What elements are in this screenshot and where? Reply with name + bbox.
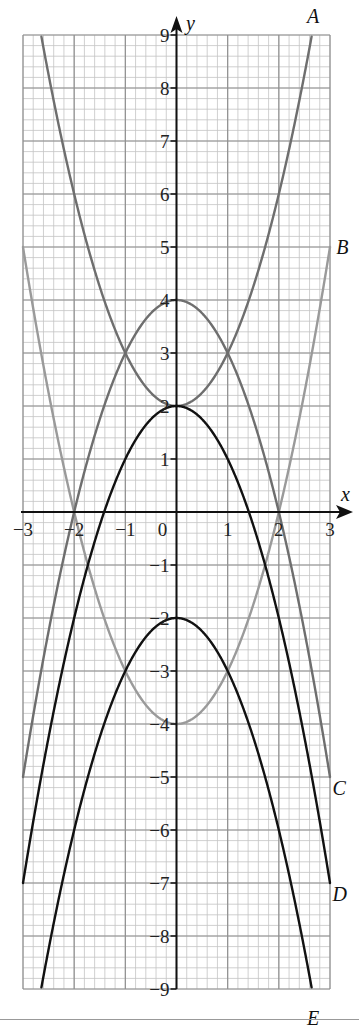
y-tick-label: 3 (160, 343, 170, 364)
curve-label-c: C (333, 777, 347, 799)
y-tick-label: −9 (149, 979, 169, 1000)
y-tick-label: 9 (160, 25, 170, 46)
y-tick-label: −3 (149, 661, 169, 682)
y-tick-label: −6 (149, 820, 169, 841)
x-tick-label: 2 (274, 519, 284, 540)
y-tick-label: −8 (149, 926, 169, 947)
x-tick-label: 1 (223, 519, 233, 540)
graph-chart: xy −3−2−11230−9−8−7−6−5−4−3−2−1123456789… (0, 0, 359, 1030)
y-axis-label: y (184, 12, 195, 35)
y-tick-label: −5 (149, 767, 169, 788)
y-tick-label: 8 (160, 78, 170, 99)
y-tick-label: −4 (149, 714, 170, 735)
y-tick-label: 6 (160, 184, 170, 205)
y-tick-label: 4 (160, 290, 170, 311)
y-tick-label: 1 (160, 449, 170, 470)
x-tick-label: −1 (115, 519, 135, 540)
y-tick-label: −2 (149, 608, 169, 629)
x-axis-label: x (340, 483, 350, 505)
curve-label-a: A (305, 5, 320, 27)
y-tick-label: −1 (149, 555, 169, 576)
x-tick-label: 3 (325, 519, 335, 540)
bottom-separator (0, 1019, 359, 1020)
origin-label: 0 (158, 519, 168, 540)
y-tick-label: 5 (160, 237, 170, 258)
y-tick-label: 2 (160, 396, 170, 417)
curve-label-d: D (332, 883, 348, 905)
y-tick-label: −7 (149, 873, 169, 894)
y-tick-label: 7 (160, 131, 170, 152)
curve-labels: ABCDE (305, 5, 348, 1029)
x-tick-label: −3 (13, 519, 33, 540)
curve-label-b: B (336, 236, 348, 258)
x-tick-label: −2 (64, 519, 84, 540)
